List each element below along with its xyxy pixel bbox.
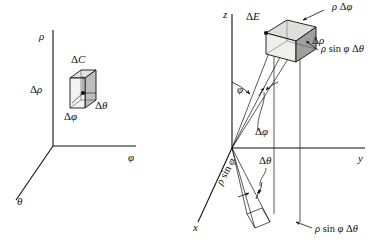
right-axis-label-y: y bbox=[358, 153, 363, 164]
right-box-delta-e bbox=[264, 20, 316, 62]
phi-symbol: φ bbox=[338, 223, 344, 234]
figure-vector-graphics bbox=[0, 0, 382, 243]
left-label-delta-phi-var: φ bbox=[71, 110, 77, 122]
right-label-rho-sin-phi-delta-theta: ρ sin φ Δθ bbox=[321, 44, 364, 55]
phi-symbol: φ bbox=[344, 43, 350, 54]
leader-rho-sin-phi bbox=[238, 193, 249, 197]
phi-symbol: φ bbox=[346, 1, 352, 12]
leader-base-rho-sin-phi-delta-theta bbox=[296, 222, 312, 228]
figure-container: ρ φ θ ΔC Δρ Δφ Δθ z y x ΔE ρ Δφ Δρ ρ sin… bbox=[0, 0, 382, 243]
left-label-delta-c: ΔC bbox=[71, 54, 85, 65]
left-axis-theta-line bbox=[16, 146, 53, 200]
right-axis-label-x: x bbox=[193, 222, 198, 233]
left-axis-label-rho: ρ bbox=[39, 31, 44, 42]
right-label-delta-phi: Δφ bbox=[255, 126, 268, 137]
left-label-delta-rho-var: ρ bbox=[37, 83, 42, 95]
right-label-delta-theta: Δθ bbox=[259, 155, 271, 166]
delta-symbol: Δ bbox=[352, 43, 359, 54]
ray-origin-to-base-inner bbox=[232, 148, 247, 214]
base-edge-bottom bbox=[255, 222, 270, 228]
rho-symbol: ρ bbox=[321, 43, 326, 54]
left-axis-label-theta: θ bbox=[17, 196, 22, 207]
arc-delta-phi-upper bbox=[266, 82, 278, 90]
sin-function: sin bbox=[323, 223, 335, 234]
rho-symbol: ρ bbox=[315, 223, 320, 234]
left-label-delta-c-var: C bbox=[78, 53, 85, 65]
right-angle-marks bbox=[232, 82, 278, 199]
left-label-delta-theta: Δθ bbox=[95, 100, 107, 111]
left-box-delta-c bbox=[70, 70, 96, 108]
arc-delta-theta-upper bbox=[259, 182, 262, 193]
right-label-base-rho-sin-phi-delta-theta: ρ sin φ Δθ bbox=[315, 224, 358, 235]
right-label-rho-delta-phi: ρ Δφ bbox=[332, 2, 352, 13]
theta-symbol: θ bbox=[359, 43, 364, 54]
phi-symbol: φ bbox=[262, 125, 268, 137]
delta-symbol: Δ bbox=[346, 223, 353, 234]
right-label-delta-e: ΔE bbox=[246, 11, 260, 22]
leader-delta-theta bbox=[260, 168, 266, 186]
right-axis-label-z: z bbox=[223, 9, 227, 20]
leader-rho-delta-phi bbox=[303, 10, 324, 20]
rho-symbol: ρ bbox=[332, 1, 337, 12]
theta-symbol: θ bbox=[353, 223, 358, 234]
base-edge-left-side bbox=[247, 214, 255, 228]
left-box-center-point bbox=[81, 91, 85, 95]
right-label-angle-phi: φ bbox=[237, 84, 243, 95]
base-edge-right-side bbox=[262, 208, 270, 222]
left-axis-label-phi: φ bbox=[128, 152, 134, 163]
left-label-delta-rho: Δρ bbox=[30, 84, 42, 95]
theta-symbol: θ bbox=[266, 154, 271, 166]
arc-delta-phi-lower bbox=[259, 88, 264, 96]
left-label-delta-theta-var: θ bbox=[102, 99, 107, 111]
right-label-delta-e-var: E bbox=[253, 10, 260, 22]
right-box-near-corner-point bbox=[264, 31, 268, 35]
left-label-delta-phi: Δφ bbox=[64, 111, 77, 122]
sin-function: sin bbox=[329, 43, 341, 54]
